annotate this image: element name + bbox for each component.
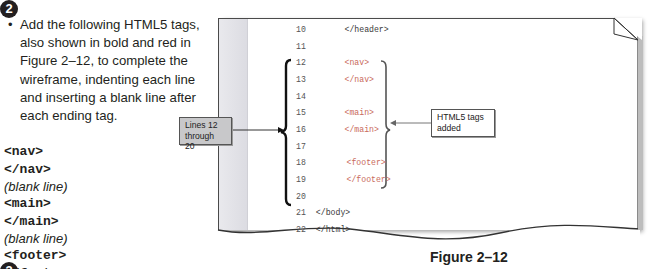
bullet-icon: • bbox=[8, 16, 13, 34]
code-line: </html> bbox=[306, 225, 350, 234]
tag-main-open: <main> bbox=[4, 196, 51, 211]
line-number: 22 bbox=[296, 225, 306, 234]
code-figure-panel bbox=[218, 18, 638, 230]
code-line: </body> bbox=[306, 208, 350, 217]
callout-line: added bbox=[437, 123, 489, 134]
callout-line: HTML5 tags bbox=[437, 112, 489, 123]
callout-line: through 20 bbox=[185, 131, 226, 152]
code-line-added: </footer> bbox=[317, 175, 391, 184]
code-line-added: <main> bbox=[315, 108, 374, 117]
code-line-added: <nav> bbox=[315, 58, 369, 67]
code-line: </header> bbox=[315, 25, 389, 34]
code-line-added: <footer> bbox=[317, 158, 386, 167]
line-number: 10 bbox=[296, 25, 306, 34]
figure-caption: Figure 2–12 bbox=[430, 249, 508, 265]
line-number: 14 bbox=[296, 92, 306, 101]
line-number: 11 bbox=[296, 42, 306, 51]
blank-line-note: (blank line) bbox=[4, 179, 68, 194]
tag-nav-close: </nav> bbox=[4, 162, 51, 177]
callout-line: Lines 12 bbox=[185, 120, 226, 131]
line-number: 12 bbox=[296, 58, 306, 67]
line-number: 13 bbox=[296, 75, 306, 84]
next-step-badge: 3 bbox=[0, 262, 18, 269]
tag-nav-open: <nav> bbox=[4, 144, 43, 159]
line-number: 21 bbox=[296, 208, 306, 217]
callout-lines-range: Lines 12 through 20 bbox=[179, 117, 232, 145]
line-number: 15 bbox=[296, 108, 306, 117]
line-number: 16 bbox=[296, 125, 306, 134]
code-line-added: </nav> bbox=[315, 75, 374, 84]
instruction-text: Add the following HTML5 tags, also shown… bbox=[8, 16, 213, 125]
line-number: 17 bbox=[296, 142, 306, 151]
tag-footer-open: <footer> bbox=[4, 248, 66, 263]
line-number: 20 bbox=[296, 192, 306, 201]
line-number: 19 bbox=[296, 175, 306, 184]
tag-main-close: </main> bbox=[4, 214, 59, 229]
callout-tags-added: HTML5 tags added bbox=[431, 109, 495, 137]
instruction-paragraph: • Add the following HTML5 tags, also sho… bbox=[8, 16, 213, 125]
code-line-added: </main> bbox=[315, 125, 379, 134]
blank-line-note: (blank line) bbox=[4, 231, 68, 246]
line-number: 18 bbox=[296, 158, 306, 167]
